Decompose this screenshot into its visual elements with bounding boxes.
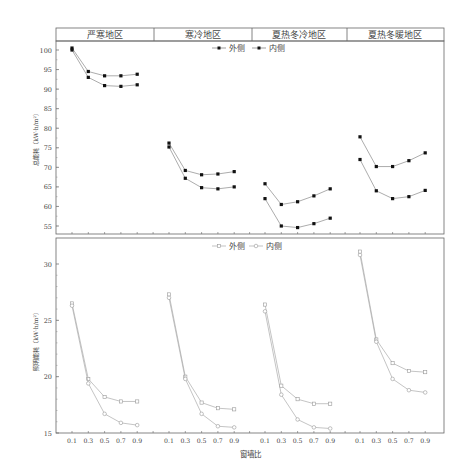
x-tick-label: 0.3 [180,437,190,444]
data-point [135,423,139,427]
x-tick-label: 0.1 [67,437,77,444]
series-line [72,50,137,86]
y-tick-label: 15 [44,430,52,438]
x-tick-label: 0.5 [197,437,207,444]
data-point [263,310,267,314]
y-tick-label: 30 [44,261,52,269]
data-point [391,377,395,381]
data-point [70,48,73,51]
y-tick-label: 75 [44,144,52,152]
top-legend: 外侧 内侧 [212,43,285,53]
data-point [233,185,236,188]
data-point [200,186,203,189]
x-tick-label: 0.1 [355,437,365,444]
panel-title-cold: 寒冷地区 [185,29,221,40]
data-point [87,70,90,73]
data-point [216,424,220,428]
panel-header: 严寒地区 寒冷地区 夏热冬冷地区 夏热冬暖地区 [56,28,444,41]
data-point [312,402,315,405]
data-point [391,362,394,365]
data-point [200,173,203,176]
top-series [70,46,426,229]
data-point [119,85,122,88]
x-tick-label: 0.5 [388,437,398,444]
series-line [72,48,137,76]
data-point [136,73,139,76]
x-tick-label: 0.5 [100,437,110,444]
x-tick-label: 0.7 [404,437,414,444]
data-point [328,427,332,431]
bottom-y-axis: 15202530 [44,261,59,438]
x-tick-label: 0.9 [132,437,142,444]
panel-title-severe-cold: 严寒地区 [87,29,123,40]
data-point [119,400,122,403]
top-y-axis-label: 总能耗（kW·h/m²） [32,110,40,166]
data-point [407,388,411,392]
data-point [233,170,236,173]
data-point [407,369,410,372]
x-tick-label: 0.3 [276,437,286,444]
data-point [391,197,394,200]
legend-outer-label: 外侧 [229,241,245,251]
data-point [296,226,299,229]
data-point [424,371,427,374]
data-point [312,426,316,430]
data-point [87,76,90,79]
x-axis-label: 窗墙比 [240,449,262,459]
data-point [200,412,204,416]
y-tick-label: 55 [44,223,52,231]
panel-title-hot-summer-warm-winter: 夏热冬暖地区 [368,29,422,40]
data-point [136,83,139,86]
series-line [360,137,425,167]
bottom-plot-frame [56,238,444,433]
data-point [358,250,361,253]
legend-outer-label: 外侧 [229,43,245,53]
data-point [312,194,315,197]
x-tick-label: 0.9 [229,437,239,444]
data-point [216,172,219,175]
data-point [423,391,427,395]
data-point [184,177,187,180]
data-point [119,74,122,77]
bottom-y-axis-label: 照明能耗（kW·h/m²） [32,309,40,371]
data-point [184,169,187,172]
data-point [280,203,283,206]
data-point [329,217,332,220]
bottom-series [70,250,427,430]
y-tick-label: 95 [44,66,52,74]
x-tick-label: 0.7 [116,437,126,444]
data-point [263,303,266,306]
data-point [358,135,361,138]
data-point [358,158,361,161]
data-point [312,222,315,225]
data-point [103,74,106,77]
data-point [103,412,107,416]
data-point [358,253,362,257]
data-point [216,187,219,190]
data-point [407,195,410,198]
data-point [280,224,283,227]
data-point [184,377,188,381]
data-point [263,197,266,200]
data-point [103,395,106,398]
legend-inner-label: 内侧 [266,241,282,251]
x-tick-label: 0.9 [325,437,335,444]
data-point [424,189,427,192]
y-tick-label: 25 [44,317,52,325]
data-point [329,187,332,190]
y-tick-label: 90 [44,86,52,94]
series-line [169,143,234,175]
data-point [296,418,300,422]
data-point [167,296,171,300]
data-point [280,384,283,387]
x-tick-label: 0.9 [420,437,430,444]
data-point [375,165,378,168]
series-line [360,252,425,373]
y-tick-label: 80 [44,125,52,133]
bottom-legend: 外侧 内侧 [212,241,282,251]
data-point [407,159,410,162]
data-point [87,382,91,386]
series-line [72,306,137,425]
series-line [265,311,330,428]
data-point [233,408,236,411]
